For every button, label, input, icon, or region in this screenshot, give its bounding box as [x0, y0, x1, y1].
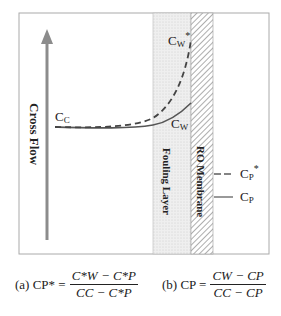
cross-flow-label: Cross Flow: [27, 103, 42, 166]
equation-b-numerator: CW − CP: [210, 268, 265, 285]
equation-a-prefix: (a) CP* =: [15, 277, 66, 293]
equation-a-numerator: C*W − C*P: [70, 268, 138, 285]
equation-b: (b) CP = CW − CPCC − CP: [162, 268, 266, 301]
equation-b-prefix: (b) CP =: [162, 277, 206, 293]
membrane-label: RO Membrane: [195, 146, 207, 217]
diagram-frame: [19, 13, 269, 254]
ro-membrane: [191, 13, 213, 254]
equation-b-denominator: CC − CP: [214, 285, 263, 301]
equation-a: (a) CP* = C*W − C*PCC − C*P: [15, 268, 138, 301]
equation-a-denominator: CC − C*P: [76, 285, 132, 301]
fouling-layer-label: Fouling Layer: [161, 148, 173, 215]
fouling-layer: [153, 13, 191, 254]
